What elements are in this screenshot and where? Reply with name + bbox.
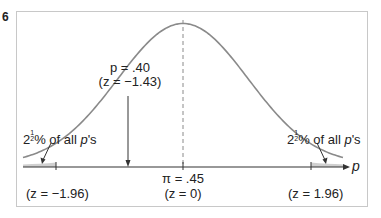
sample-p-arrowhead-icon [126, 160, 131, 167]
left-tail-pointer-arrowhead-icon [41, 158, 46, 165]
left-tail-shading [23, 163, 56, 167]
x-axis-label: p [352, 159, 360, 173]
axis-arrowhead-icon [343, 164, 350, 170]
left-z-label: (z = −1.96) [26, 187, 89, 201]
sample-z-label: (z = −1.43) [85, 75, 175, 89]
right-tail-shading [311, 163, 344, 167]
left-tail-suffix: 's [88, 132, 97, 147]
mean-label: π = .45 [143, 172, 223, 186]
left-tail-whole: 2 [23, 132, 30, 147]
right-tail-whole: 2 [287, 132, 294, 147]
right-tail-var: p [344, 132, 351, 147]
sample-p-label: p = .40 [90, 61, 170, 75]
left-tail-label: 212% of all p's [23, 130, 97, 147]
right-tail-suffix: 's [352, 132, 361, 147]
left-tail-text: % of all [34, 132, 80, 147]
right-z-label: (z = 1.96) [288, 187, 343, 201]
right-tail-pointer-arrowhead-icon [323, 158, 328, 165]
left-tail-var: p [80, 132, 87, 147]
mean-z-label: (z = 0) [143, 187, 223, 201]
right-tail-text: % of all [298, 132, 344, 147]
right-tail-label: 212% of all p's [287, 130, 361, 147]
corner-mark: 6 [2, 10, 9, 24]
